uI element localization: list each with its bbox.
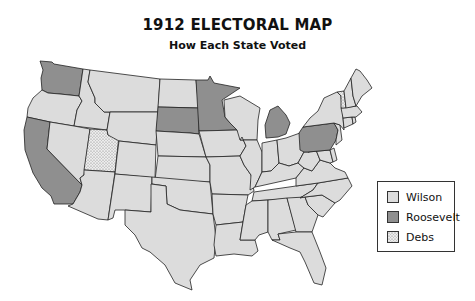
state-arkansas: Arkansas: Wilson [212, 194, 248, 225]
state-south-dakota: South Dakota: Roosevelt [156, 107, 199, 134]
state-maine: Maine: Wilson [351, 69, 372, 106]
state-connecticut: Connecticut: Wilson [343, 117, 353, 128]
legend-swatch-debs [387, 231, 399, 243]
legend-item-roosevelt: Roosevelt [387, 209, 460, 225]
legend-swatch-roosevelt [387, 211, 399, 223]
legend-label-wilson: Wilson [406, 191, 442, 204]
state-rhode-island: Rhode Island: Wilson [352, 117, 356, 124]
state-new-york: New York: Wilson [303, 92, 344, 130]
state-washington: Washington: Roosevelt [40, 61, 83, 96]
states-layer: Washington: RooseveltOregon: WilsonCalif… [24, 61, 372, 290]
state-colorado: Colorado: Wilson [115, 141, 156, 178]
state-pennsylvania: Pennsylvania: Roosevelt [299, 123, 338, 152]
us-electoral-map: Washington: RooseveltOregon: WilsonCalif… [0, 0, 475, 301]
state-montana: Montana: Wilson [88, 70, 160, 112]
legend-swatch-wilson [387, 191, 399, 203]
legend-item-wilson: Wilson [387, 189, 442, 205]
state-florida: Florida: Wilson [272, 232, 326, 285]
state-north-dakota: North Dakota: Wilson [158, 79, 199, 108]
legend-label-debs: Debs [406, 231, 434, 244]
map-legend: Wilson Roosevelt Debs [377, 181, 455, 252]
state-nebraska: Nebraska: Wilson [156, 131, 206, 157]
legend-item-debs: Debs [387, 229, 434, 245]
state-michigan: Michigan: Roosevelt [265, 106, 290, 138]
legend-label-roosevelt: Roosevelt [406, 211, 460, 224]
